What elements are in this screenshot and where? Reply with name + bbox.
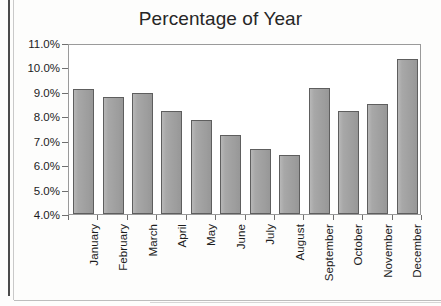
x-axis-category-label: March: [147, 224, 159, 256]
x-axis-category-label: April: [176, 224, 188, 248]
x-axis-tick: [392, 215, 393, 220]
x-axis-tick: [303, 215, 304, 220]
plot-frame: [68, 44, 421, 215]
chart-title: Percentage of Year: [0, 8, 441, 30]
chart-page: Percentage of Year 11.0%10.0%9.0%8.0%7.0…: [0, 0, 441, 306]
bar: [103, 97, 124, 214]
y-axis-tick-label: 9.0%: [34, 87, 60, 99]
bar: [132, 93, 153, 214]
bar: [191, 120, 212, 214]
page-gutter-artifact: [8, 0, 10, 296]
x-axis-tick: [156, 215, 157, 220]
x-axis-tick: [333, 215, 334, 220]
y-axis-tick-label: 4.0%: [34, 209, 60, 221]
x-axis-category-label: December: [411, 224, 423, 278]
y-axis-tick-label: 11.0%: [28, 38, 60, 50]
bar: [338, 111, 359, 214]
y-axis-tick-label: 8.0%: [34, 111, 60, 123]
y-axis-tick-label: 5.0%: [34, 185, 60, 197]
bar: [279, 155, 300, 214]
x-axis-category-label: June: [235, 224, 247, 249]
x-axis-category-label: January: [88, 224, 100, 266]
x-axis-tick: [421, 215, 422, 220]
bar: [73, 89, 94, 214]
bar: [397, 59, 418, 214]
page-bottom-rule-artifact: [14, 300, 441, 301]
bar: [220, 135, 241, 214]
y-axis-tick-label: 6.0%: [34, 160, 60, 172]
page-gutter-artifact-secondary: [13, 0, 14, 300]
x-axis-category-label: September: [323, 224, 335, 281]
x-axis-category-label: July: [264, 224, 276, 245]
x-axis-tick: [127, 215, 128, 220]
bar: [309, 88, 330, 214]
x-axis-tick: [68, 215, 69, 220]
y-axis-tick-label: 7.0%: [34, 136, 60, 148]
x-axis-category-label: May: [205, 224, 217, 246]
x-axis-category-label: November: [382, 224, 394, 278]
x-axis-tick: [97, 215, 98, 220]
plot-area: [69, 45, 420, 214]
x-axis-tick: [186, 215, 187, 220]
x-axis-tick: [274, 215, 275, 220]
bar: [161, 111, 182, 214]
x-axis-category-label: October: [352, 224, 364, 266]
x-axis-category-label: August: [294, 224, 306, 260]
x-axis-tick: [362, 215, 363, 220]
x-axis-category-label: February: [117, 224, 129, 271]
y-axis-tick-label: 10.0%: [27, 62, 60, 74]
x-axis-tick: [245, 215, 246, 220]
x-axis-tick: [215, 215, 216, 220]
page-bottom-rule-artifact-secondary: [150, 302, 441, 303]
bar: [367, 104, 388, 214]
bar: [250, 149, 271, 214]
